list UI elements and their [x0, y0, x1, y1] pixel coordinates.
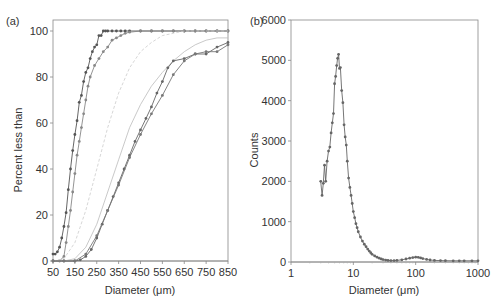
y-tick-label: 60	[36, 117, 48, 129]
data-point-marker	[332, 112, 335, 115]
data-point-marker	[95, 43, 98, 46]
data-point-marker	[76, 154, 79, 157]
data-point-marker	[67, 225, 70, 228]
data-point-marker	[205, 50, 208, 53]
data-point-marker	[227, 43, 230, 46]
data-point-marker	[350, 194, 353, 197]
data-point-marker	[93, 64, 96, 67]
data-point-marker	[78, 140, 81, 143]
data-point-marker	[78, 101, 81, 104]
data-point-marker	[71, 149, 74, 152]
panel-a-x-axis: 50150250350450550650750850	[47, 261, 237, 278]
data-point-marker	[73, 172, 76, 175]
data-point-marker	[115, 30, 118, 33]
data-point-marker	[54, 253, 57, 256]
series-line	[53, 31, 228, 261]
data-point-marker	[115, 37, 118, 40]
x-tick-label: 50	[47, 266, 59, 278]
data-point-marker	[183, 60, 186, 63]
data-point-marker	[128, 156, 131, 159]
data-point-marker	[172, 73, 175, 76]
series-line	[53, 38, 228, 261]
series-line	[53, 43, 228, 262]
series-5	[52, 41, 230, 262]
data-point-marker	[389, 259, 392, 262]
data-point-marker	[382, 258, 385, 261]
data-point-marker	[80, 126, 83, 129]
series-3	[53, 31, 228, 261]
y-tick-label: 1000	[262, 216, 286, 228]
data-point-marker	[429, 259, 432, 262]
y-tick-label: 20	[36, 209, 48, 221]
data-point-marker	[463, 259, 466, 262]
data-point-marker	[458, 259, 461, 262]
data-point-marker	[414, 256, 417, 259]
data-point-marker	[327, 150, 330, 153]
panel-a-series	[52, 30, 230, 263]
data-point-marker	[84, 253, 87, 256]
data-point-marker	[471, 259, 474, 262]
x-tick-label: 100	[406, 267, 424, 279]
y-tick-label: 80	[36, 71, 48, 83]
series-6	[52, 43, 230, 262]
data-point-marker	[384, 259, 387, 262]
data-point-marker	[444, 259, 447, 262]
data-point-marker	[351, 202, 354, 205]
panel-b-series	[319, 53, 479, 262]
y-tick-label: 2000	[262, 175, 286, 187]
panel-a-y-axis-label: Percent less than	[12, 108, 24, 193]
data-point-marker	[106, 209, 109, 212]
x-tick-label: 1000	[466, 267, 490, 279]
data-point-marker	[93, 46, 96, 49]
panel-a-cumulative-distribution: (a) 020406080100 50150250350450550650750…	[6, 15, 237, 296]
data-point-marker	[421, 257, 424, 260]
data-point-marker	[172, 30, 175, 33]
data-point-marker	[89, 57, 92, 60]
data-point-marker	[172, 60, 175, 63]
series-line	[321, 54, 478, 260]
data-point-marker	[128, 31, 131, 34]
data-point-marker	[341, 101, 344, 104]
y-tick-label: 6000	[262, 14, 286, 26]
data-point-marker	[452, 259, 455, 262]
data-point-marker	[359, 236, 362, 239]
data-point-marker	[477, 259, 480, 262]
panel-b-count-distribution: (b) 0100020003000400050006000 1101001000…	[248, 14, 490, 296]
data-point-marker	[106, 46, 109, 49]
data-point-marker	[361, 240, 364, 243]
data-point-marker	[100, 34, 103, 37]
data-point-marker	[216, 50, 219, 53]
x-tick-label: 450	[131, 266, 149, 278]
data-point-marker	[95, 234, 98, 237]
figure: (a) 020406080100 50150250350450550650750…	[0, 0, 501, 307]
data-point-marker	[347, 177, 350, 180]
data-point-marker	[139, 129, 142, 132]
data-point-marker	[145, 117, 148, 120]
data-point-marker	[119, 30, 122, 33]
series-2	[52, 30, 230, 263]
data-point-marker	[400, 258, 403, 261]
data-point-marker	[91, 50, 94, 53]
data-point-marker	[346, 160, 349, 163]
data-point-marker	[80, 94, 83, 97]
data-point-marker	[73, 260, 76, 263]
data-point-marker	[166, 66, 169, 69]
data-point-marker	[156, 92, 159, 95]
data-point-marker	[331, 121, 334, 124]
x-tick-label: 250	[88, 266, 106, 278]
x-tick-label: 850	[219, 266, 237, 278]
data-point-marker	[79, 258, 82, 261]
data-point-marker	[323, 164, 326, 167]
data-point-marker	[119, 34, 122, 37]
data-point-marker	[139, 133, 142, 136]
data-point-marker	[87, 85, 90, 88]
data-point-marker	[340, 89, 343, 92]
data-point-marker	[73, 133, 76, 136]
data-point-marker	[393, 259, 396, 262]
series-line	[53, 31, 228, 261]
data-point-marker	[82, 80, 85, 83]
data-point-marker	[334, 75, 337, 78]
data-point-marker	[69, 168, 72, 171]
data-point-marker	[363, 243, 366, 246]
x-tick-label: 650	[175, 266, 193, 278]
